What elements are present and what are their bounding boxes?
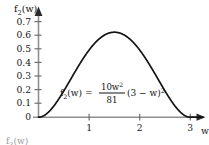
formula-numerator-base: 10w (101, 82, 120, 92)
y-tick-label-0.1: 0.1 (16, 97, 31, 108)
y-tick-label-0.5: 0.5 (16, 43, 31, 54)
x-tick-label-2: 2 (137, 122, 143, 133)
y-tick-label-0.7: 0.7 (16, 16, 31, 27)
formula-lhs-rest: (w) = (67, 88, 92, 98)
plot-canvas: 0.7 0.6 0.5 0.4 0.3 0.2 0.1 0 1 2 3 f2(w… (0, 0, 209, 145)
figure-container: 0.7 0.6 0.5 0.4 0.3 0.2 0.1 0 1 2 3 f2(w… (0, 0, 209, 145)
next-figure-label-arg: (w) (13, 136, 28, 145)
formula-numerator-exponent: 2 (119, 81, 123, 88)
formula-rhs-exponent: 2 (161, 87, 165, 94)
x-tick-label-1: 1 (86, 122, 92, 133)
origin-label-0: 0 (25, 111, 31, 122)
formula-denominator: 81 (107, 95, 118, 105)
y-tick-label-0.6: 0.6 (16, 29, 31, 40)
y-tick-label-0.3: 0.3 (16, 70, 31, 81)
x-axis-title: w (201, 125, 209, 136)
x-tick-label-3: 3 (187, 122, 193, 133)
next-figure-label: f3(w) (6, 136, 28, 145)
y-axis-title: f2(w) (14, 3, 37, 17)
density-curve (39, 32, 203, 117)
y-tick-label-0.4: 0.4 (16, 57, 31, 68)
formula-rhs-base: (3 − w) (127, 88, 161, 98)
formula-rhs: (3 − w)2 (127, 87, 165, 98)
y-axis-title-arg: (w) (22, 3, 38, 14)
y-tick-label-0.2: 0.2 (16, 84, 31, 95)
formula-annotation: f2(w) = 10w2 81 (3 − w)2 (60, 81, 165, 105)
formula-numerator: 10w2 (101, 81, 123, 92)
